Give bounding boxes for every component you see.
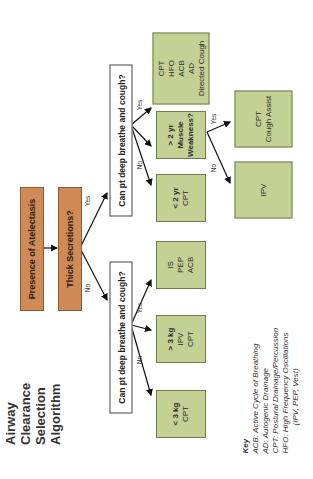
- result-text: IPV: [176, 333, 186, 346]
- key-heading: Key: [241, 439, 251, 454]
- result-text: Cough Assist: [264, 96, 274, 143]
- result-text: CPT: [181, 406, 191, 422]
- result-heading: > 2 yr: [166, 124, 176, 145]
- cpt-cough-assist-box: CPT Cough Assist: [235, 91, 293, 148]
- edge-label-yes: Yes: [134, 98, 144, 112]
- question-box-yes-branch: Can pt deep breathe and cough?: [110, 65, 133, 217]
- edge-label-no: No: [134, 158, 144, 172]
- edge-label-yes: Yes: [208, 112, 218, 126]
- result-text: HFO: [166, 60, 176, 77]
- key-item: AD: Autogenic Drainage: [261, 368, 271, 454]
- edge-label-no: No: [208, 161, 218, 175]
- result-text: CPT: [186, 331, 196, 347]
- ipv-box: IPV: [235, 162, 293, 219]
- result-text: ACB: [176, 60, 186, 76]
- key-item: HFO: High Frequency Oscillations: [281, 333, 291, 454]
- result-text: Weakness?: [186, 113, 196, 157]
- key-item: CPT: Postural Drainage/Percussion: [271, 328, 281, 454]
- result-text: Directed Cough: [196, 41, 206, 97]
- result-heading: < 2 yr: [171, 187, 181, 208]
- result-text: CPT: [254, 111, 264, 127]
- edge-label-no: No: [82, 281, 92, 295]
- result-heading: < 3 kg: [171, 403, 181, 426]
- result-text: CPT: [181, 190, 191, 206]
- result-text: AD: [186, 63, 196, 74]
- result-text: ACB: [186, 257, 196, 273]
- result-text: CPT: [156, 61, 166, 77]
- question-box-no-branch: Can pt deep breathe and cough?: [110, 262, 133, 414]
- result-heading: > 3 kg: [166, 328, 176, 351]
- lt-2yr-cpt-box: < 2 yr CPT: [156, 174, 206, 222]
- lt-3kg-box: < 3 kg CPT: [156, 390, 206, 438]
- result-box-cpt-hfo-acb-ad: CPT HFO ACB AD Directed Cough: [153, 33, 210, 105]
- presence-of-atelectasis-box: Presence of Atelectasis: [20, 187, 44, 311]
- gt-2yr-muscle-weakness-box: > 2 yr Muscle Weakness?: [156, 111, 206, 159]
- edge-label-yes: Yes: [82, 194, 92, 208]
- edge-label-yes: Yes: [134, 301, 144, 315]
- title-line-1: Airway Clearance: [3, 345, 33, 445]
- title-line-2: Selection Algorithm: [33, 345, 63, 445]
- key-item: ACB: Active Cycle of Breathing: [251, 344, 261, 454]
- key-item: (IPV, PEP, Vest): [291, 368, 301, 453]
- edge-label-no: No: [134, 353, 144, 367]
- key-legend: Key ACB: Active Cycle of Breathing AD: A…: [241, 299, 305, 454]
- result-text: Muscle: [176, 121, 186, 148]
- result-text: IS: [166, 261, 176, 269]
- gt-3kg-box: > 3 kg IPV CPT: [156, 315, 206, 363]
- diagram-title: Airway Clearance Selection Algorithm: [16, 345, 50, 445]
- is-pep-acb-box: IS PEP ACB: [156, 241, 206, 289]
- thick-secretions-box: Thick Secretions?: [58, 187, 82, 311]
- result-text: PEP: [176, 257, 186, 273]
